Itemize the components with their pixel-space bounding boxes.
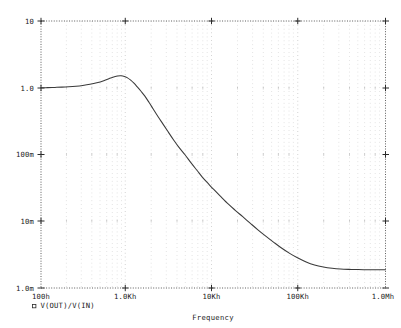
plot-area-background <box>41 21 386 288</box>
y-tick-label-1: 1.0 <box>20 84 34 93</box>
x-tick-label-0: 100h <box>32 292 50 301</box>
y-tick-label-0: 10 <box>25 17 34 26</box>
chart-legend[interactable]: V(OUT)/V(IN) <box>33 301 95 310</box>
spice-plot-window: 10 1.0 100m 10m 1.0m 100h 1.0Kh 10Kh 100… <box>0 0 401 328</box>
y-axis-tick-labels: 10 1.0 100m 10m 1.0m <box>16 17 34 293</box>
x-tick-label-3: 100Kh <box>286 292 309 301</box>
y-tick-label-2: 100m <box>16 150 34 159</box>
x-tick-label-2: 10Kh <box>202 292 220 301</box>
bode-magnitude-chart: 10 1.0 100m 10m 1.0m 100h 1.0Kh 10Kh 100… <box>0 0 401 328</box>
x-tick-label-4: 1.0Mh <box>372 292 395 301</box>
square-marker-icon <box>33 304 36 307</box>
x-axis-title: Frequency <box>192 313 234 322</box>
x-axis-tick-labels: 100h 1.0Kh 10Kh 100Kh 1.0Mh <box>32 292 394 301</box>
legend-entry-label[interactable]: V(OUT)/V(IN) <box>41 301 95 310</box>
y-tick-label-3: 10m <box>20 217 34 226</box>
x-tick-label-1: 1.0Kh <box>114 292 137 301</box>
